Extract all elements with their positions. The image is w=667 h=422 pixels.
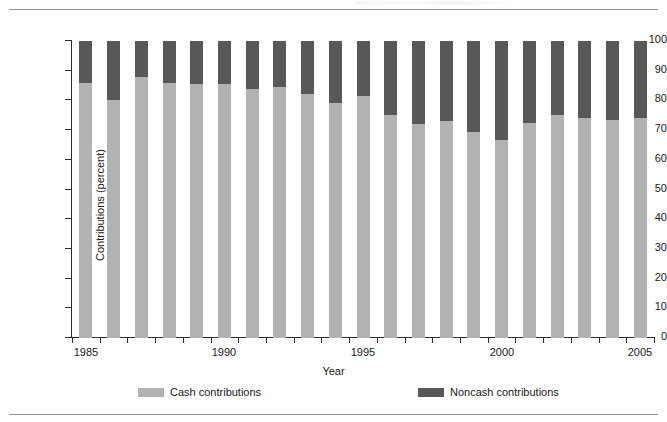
y-tick-mark <box>65 40 71 41</box>
bar-segment-cash <box>578 118 591 338</box>
bar-2002 <box>551 41 564 338</box>
bar-segment-cash <box>79 83 92 338</box>
bar-segment-cash <box>523 123 536 338</box>
x-tick-mark <box>515 338 516 343</box>
y-axis-title: Contributions (percent) <box>94 56 106 354</box>
bar-segment-noncash <box>412 41 425 124</box>
bar-segment-cash <box>412 124 425 338</box>
x-tick-mark <box>321 338 322 343</box>
legend-swatch-noncash <box>418 388 444 397</box>
bar-1992 <box>273 41 286 338</box>
bar-segment-cash <box>357 96 370 338</box>
legend-label-noncash: Noncash contributions <box>450 386 559 398</box>
x-tick-label: 1990 <box>201 346 247 358</box>
x-tick-mark <box>432 338 433 343</box>
y-tick-mark <box>65 337 71 338</box>
bar-segment-noncash <box>467 41 480 132</box>
chart-legend: Cash contributions Noncash contributions <box>0 386 667 402</box>
y-tick-mark <box>65 99 71 100</box>
bar-segment-noncash <box>273 41 286 87</box>
x-axis-title: Year <box>0 365 667 377</box>
bar-1997 <box>412 41 425 338</box>
bar-segment-noncash <box>301 41 314 94</box>
bar-2005 <box>634 41 647 338</box>
bar-1985 <box>79 41 92 338</box>
x-tick-mark <box>571 338 572 343</box>
y-tick-mark <box>65 129 71 130</box>
bar-segment-cash <box>467 132 480 338</box>
bar-2003 <box>578 41 591 338</box>
bar-1995 <box>357 41 370 338</box>
bar-segment-cash <box>107 100 120 338</box>
x-tick-mark <box>599 338 600 343</box>
bar-segment-noncash <box>107 41 120 100</box>
x-tick-mark <box>349 338 350 343</box>
bar-segment-noncash <box>135 41 148 77</box>
bar-segment-noncash <box>79 41 92 83</box>
bar-segment-noncash <box>634 41 647 118</box>
x-tick-mark <box>460 338 461 343</box>
bar-segment-cash <box>634 118 647 338</box>
bar-segment-cash <box>440 121 453 338</box>
bar-segment-noncash <box>606 41 619 120</box>
bar-segment-cash <box>246 89 259 338</box>
bar-1993 <box>301 41 314 338</box>
bar-segment-noncash <box>218 41 231 84</box>
y-tick-mark <box>65 218 71 219</box>
y-tick-mark <box>65 189 71 190</box>
bar-segment-cash <box>163 83 176 338</box>
bar-segment-cash <box>190 84 203 338</box>
bar-segment-cash <box>301 94 314 338</box>
scan-artifact <box>355 1 515 5</box>
figure-container: 1009080706050403020100 19851990199520002… <box>0 0 667 422</box>
y-tick-mark <box>65 159 71 160</box>
bar-segment-noncash <box>523 41 536 123</box>
bar-segment-cash <box>384 115 397 338</box>
legend-swatch-cash <box>138 388 164 397</box>
y-tick-mark <box>65 70 71 71</box>
bottom-rule <box>9 414 658 415</box>
bar-2001 <box>523 41 536 338</box>
legend-item-noncash: Noncash contributions <box>418 386 559 398</box>
bar-1987 <box>135 41 148 338</box>
legend-label-cash: Cash contributions <box>170 386 261 398</box>
top-rule <box>9 9 658 10</box>
x-tick-mark <box>183 338 184 343</box>
x-tick-mark <box>294 338 295 343</box>
x-tick-mark <box>238 338 239 343</box>
x-tick-mark <box>211 338 212 343</box>
bar-segment-noncash <box>246 41 259 89</box>
bar-segment-noncash <box>551 41 564 115</box>
bar-1988 <box>163 41 176 338</box>
bar-1990 <box>218 41 231 338</box>
bar-segment-noncash <box>578 41 591 118</box>
plot-area: Contributions (percent) <box>72 40 654 338</box>
bar-segment-cash <box>495 140 508 338</box>
bar-1994 <box>329 41 342 338</box>
bar-1999 <box>467 41 480 338</box>
bar-segment-noncash <box>190 41 203 84</box>
bar-segment-noncash <box>163 41 176 83</box>
x-tick-mark <box>155 338 156 343</box>
bar-segment-cash <box>606 120 619 338</box>
bar-segment-cash <box>551 115 564 338</box>
bar-1996 <box>384 41 397 338</box>
x-tick-mark <box>127 338 128 343</box>
x-tick-mark <box>488 338 489 343</box>
bar-segment-cash <box>329 103 342 338</box>
legend-item-cash: Cash contributions <box>138 386 261 398</box>
y-tick-mark <box>65 248 71 249</box>
bar-segment-noncash <box>384 41 397 115</box>
bar-segment-cash <box>273 87 286 338</box>
x-tick-mark <box>377 338 378 343</box>
y-tick-mark <box>65 278 71 279</box>
bar-2000 <box>495 41 508 338</box>
bar-2004 <box>606 41 619 338</box>
bar-1989 <box>190 41 203 338</box>
bar-segment-noncash <box>357 41 370 96</box>
x-tick-label: 2005 <box>617 346 663 358</box>
bar-1991 <box>246 41 259 338</box>
x-tick-label: 2000 <box>479 346 525 358</box>
bar-segment-noncash <box>329 41 342 103</box>
y-tick-mark <box>65 307 71 308</box>
